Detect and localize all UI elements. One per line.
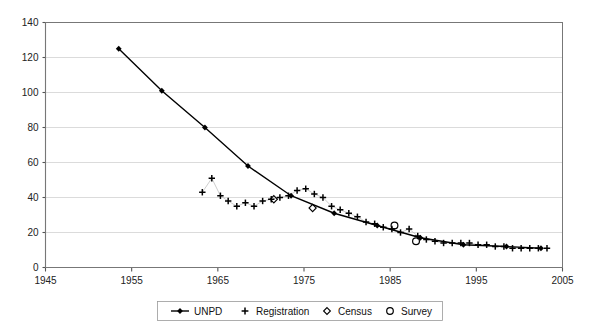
legend-label: Registration <box>256 306 309 317</box>
legend-label: Survey <box>401 306 432 317</box>
y-tick-label: 140 <box>22 17 39 28</box>
x-tick-label: 1945 <box>34 275 57 286</box>
y-tick-label: 20 <box>27 227 39 238</box>
chart-container: 020406080100120140 194519551965197519851… <box>0 0 595 331</box>
chart-legend: UNPDRegistrationCensusSurvey <box>158 302 443 321</box>
y-tick-label: 60 <box>27 157 39 168</box>
x-tick-label: 1955 <box>121 275 144 286</box>
legend-label: UNPD <box>194 306 222 317</box>
x-tick-label: 1985 <box>379 275 402 286</box>
y-tick-label: 100 <box>22 87 39 98</box>
legend-label: Census <box>338 306 372 317</box>
y-tick-label: 40 <box>27 192 39 203</box>
x-tick-label: 1975 <box>293 275 316 286</box>
infant-mortality-chart: 020406080100120140 194519551965197519851… <box>0 0 595 331</box>
x-tick-label: 1995 <box>465 275 488 286</box>
x-tick-label: 1965 <box>207 275 230 286</box>
x-tick-label: 2005 <box>551 275 574 286</box>
y-tick-label: 80 <box>27 122 39 133</box>
y-tick-label: 120 <box>22 52 39 63</box>
y-tick-label: 0 <box>33 262 39 273</box>
